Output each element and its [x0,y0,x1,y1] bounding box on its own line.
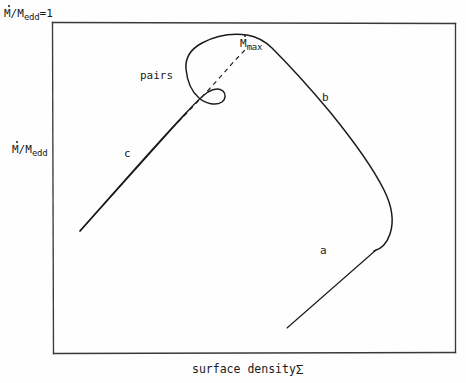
figure-canvas: M/Medd=1 M/Medd surface densityΣ Mmax pa… [0,0,466,383]
frame-top-axis [53,23,456,24]
pairs-annotation: pairs [140,70,173,81]
branch-c-label: c [124,148,131,159]
plot-svg [0,0,466,383]
sigma-symbol: Σ [296,362,304,377]
y-axis-top-value: =1 [40,7,53,20]
mmax-subscript: max [247,42,263,52]
mdot-symbol: M/M [4,8,24,19]
branch-a-label: a [320,245,327,256]
x-axis-label: surface densityΣ [192,363,304,376]
y-axis-top-label: M/Medd=1 [4,8,53,22]
y-axis-top-subscript: edd [24,12,40,22]
frame-bottom-axis [54,353,456,354]
mdot-symbol: M [240,38,247,49]
mdot-symbol: M/M [12,144,32,155]
plot-frame [53,23,456,354]
x-axis-label-text: surface density [192,362,296,376]
branch-b-label: b [322,92,329,103]
frame-left-axis [53,23,54,354]
curve-s-main [80,34,392,251]
curve-branch-a [287,250,376,328]
y-axis-label: M/Medd [12,144,48,158]
mmax-annotation: Mmax [240,38,262,52]
y-axis-subscript: edd [32,148,48,158]
